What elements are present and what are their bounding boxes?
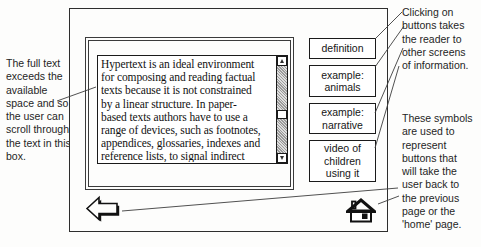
figure-canvas: The full textexceeds theavailablespace a… <box>0 0 481 247</box>
scroll-up-arrow-icon <box>280 59 284 63</box>
scrollbar-track[interactable] <box>277 66 287 153</box>
annotation-buttons-note: Clicking onbuttons takesthe reader tooth… <box>402 6 480 72</box>
back-arrow-icon[interactable] <box>84 195 122 227</box>
scrollbar[interactable] <box>276 56 287 163</box>
scrollbar-thumb[interactable] <box>277 110 287 119</box>
hypertext-text: Hypertext is an ideal environmentfor com… <box>101 58 274 162</box>
video-button[interactable]: video ofchildrenusing it <box>309 140 376 182</box>
annotation-symbols-note: These symbolsare used torepresentbuttons… <box>402 112 481 232</box>
scroll-down-button[interactable] <box>277 153 287 163</box>
example-animals-button[interactable]: example:animals <box>309 65 376 97</box>
example-narrative-button[interactable]: example:narrative <box>309 103 376 134</box>
home-icon[interactable] <box>346 198 376 224</box>
scroll-up-button[interactable] <box>277 56 287 66</box>
hypertext-text-box: Hypertext is an ideal environmentfor com… <box>97 55 288 164</box>
definition-button[interactable]: definition <box>309 38 376 59</box>
scroll-down-arrow-icon <box>280 156 284 160</box>
